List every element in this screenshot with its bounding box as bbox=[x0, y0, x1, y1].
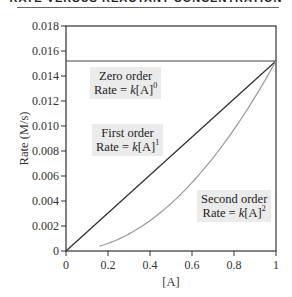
second-order-title: Second order bbox=[201, 192, 267, 206]
zero-order-annotation: Zero order Rate = k[A]0 bbox=[90, 67, 161, 99]
y-tick-label: 0.012 bbox=[32, 94, 59, 108]
zero-order-equation: Rate = k[A]0 bbox=[94, 83, 157, 97]
y-tick-label: 0.010 bbox=[32, 119, 59, 133]
y-tick-label: 0.002 bbox=[32, 219, 59, 233]
second-order-annotation: Second order Rate = k[A]2 bbox=[197, 190, 271, 222]
zero-order-title: Zero order bbox=[94, 69, 157, 83]
y-tick-label: 0 bbox=[53, 244, 59, 258]
x-tick-label: 0.8 bbox=[227, 258, 242, 272]
first-order-title: First order bbox=[96, 126, 159, 140]
y-tick-label: 0.018 bbox=[32, 19, 59, 33]
x-tick-label: 0.2 bbox=[101, 258, 116, 272]
first-order-equation: Rate = k[A]1 bbox=[96, 140, 159, 154]
y-tick-label: 0.008 bbox=[32, 144, 59, 158]
first-order-annotation: First order Rate = k[A]1 bbox=[92, 124, 163, 156]
x-tick-label: 0.6 bbox=[185, 258, 200, 272]
y-tick-label: 0.006 bbox=[32, 169, 59, 183]
second-order-equation: Rate = k[A]2 bbox=[201, 206, 267, 220]
x-axis-label: [A] bbox=[162, 275, 179, 289]
x-tick-label: 1 bbox=[273, 258, 279, 272]
y-tick-label: 0.004 bbox=[32, 194, 59, 208]
y-axis-label: Rate (M/s) bbox=[17, 112, 31, 166]
x-tick-label: 0 bbox=[63, 258, 69, 272]
y-tick-label: 0.016 bbox=[32, 44, 59, 58]
y-tick-label: 0.014 bbox=[32, 69, 59, 83]
x-tick-label: 0.4 bbox=[143, 258, 158, 272]
